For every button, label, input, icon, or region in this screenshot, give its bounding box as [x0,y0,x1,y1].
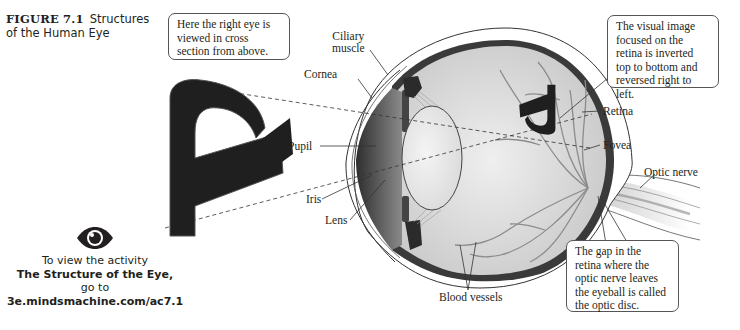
activity-title: The Structure of the Eye, [0,268,190,282]
label-pupil: Pupil [288,140,312,153]
label-ciliary-muscle: Ciliary muscle [332,31,365,54]
label-blood-vessels: Blood vessels [439,291,503,304]
label-ciliary-line2: muscle [332,42,365,54]
lens [402,106,462,210]
callout-cross-section: Here the right eye is viewed in cross se… [168,13,290,60]
label-retina: Retina [603,105,633,118]
activity-line3: go to [0,281,190,295]
leader-ciliary [370,50,388,75]
label-optic-nerve: Optic nerve [644,166,698,179]
label-ciliary-line1: Ciliary [332,30,364,42]
callout-inverted-image: The visual image focused on the retina i… [607,15,719,88]
label-fovea: Fovea [603,139,631,152]
iris-lower [402,196,409,222]
activity-line1: To view the activity [0,254,190,268]
label-iris: Iris [306,193,321,206]
callout-optic-disc: The gap in the retina where the optic ne… [566,240,679,312]
label-cornea: Cornea [304,68,337,81]
label-lens: Lens [325,214,347,227]
object-letter-r [170,80,293,236]
activity-url[interactable]: 3e.mindsmachine.com/ac7.1 [0,295,190,309]
eye-icon [75,226,115,250]
leader-cornea [358,79,372,98]
activity-link-block: To view the activity The Structure of th… [0,226,190,308]
